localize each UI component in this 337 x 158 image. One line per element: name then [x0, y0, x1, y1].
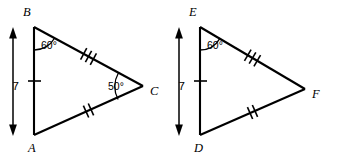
vertex-label-c: C [150, 84, 159, 98]
angle-label-b: 60° [41, 39, 57, 51]
geometry-diagram: B A C 60° 50° 7 [0, 0, 337, 158]
triangle-def: E D F 60° 7 [175, 5, 320, 155]
side-ac [34, 86, 143, 135]
side-df [200, 89, 305, 135]
angle-label-c: 50° [108, 80, 124, 92]
geometry-canvas: B A C 60° 50° 7 [0, 0, 337, 158]
tick-group-ef [244, 50, 260, 67]
vertex-label-d: D [193, 141, 203, 155]
tick-group-bc [81, 48, 97, 65]
vertex-label-a: A [27, 141, 36, 155]
dimension-label-7-right: 7 [179, 80, 185, 92]
vertex-label-f: F [311, 87, 320, 101]
angle-label-e: 60° [207, 39, 223, 51]
dimension-label-7-left: 7 [13, 80, 19, 92]
triangle-abc: B A C 60° 50° 7 [9, 5, 159, 155]
vertex-label-e: E [188, 5, 197, 19]
vertex-label-b: B [23, 5, 31, 19]
